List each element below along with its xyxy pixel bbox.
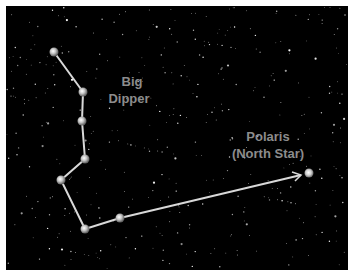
big-dipper-outline: [54, 52, 120, 229]
dipper-star-4: [81, 155, 90, 164]
polaris-star: [305, 169, 314, 178]
dipper-star-6: [81, 225, 90, 234]
big-dipper-label-line1: Big: [122, 74, 143, 89]
pointer-arrow: [120, 172, 301, 218]
dipper-star-2: [79, 88, 88, 97]
constellation-lines: [54, 52, 120, 229]
dipper-star-5: [57, 176, 66, 185]
polaris-label-line1: Polaris: [246, 129, 289, 144]
dipper-star-1: [50, 48, 59, 57]
big-dipper-stars: [50, 48, 125, 234]
big-dipper-label-line2: Dipper: [108, 91, 149, 106]
polaris-label-line2: (North Star): [232, 146, 304, 161]
arrow-to-polaris-line: [120, 175, 301, 218]
dipper-star-3: [78, 117, 87, 126]
big-dipper-diagram: Big Dipper Polaris (North Star): [0, 0, 353, 276]
background-stars: [7, 7, 347, 269]
dipper-star-7: [116, 214, 125, 223]
